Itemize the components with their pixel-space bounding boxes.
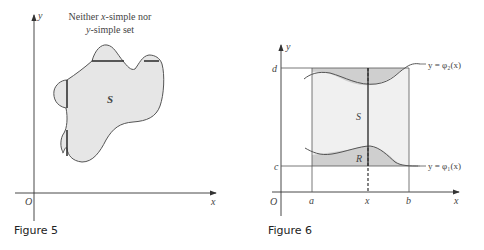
- fig5-region-label: S: [107, 93, 113, 105]
- figure-6: y x O d c a x b S R y = φ₂(x) y = φ₁(x): [270, 41, 461, 216]
- fig5-x-label: x: [210, 196, 216, 207]
- figure-6-caption: Figure 6: [268, 224, 312, 237]
- fig6-upper-curve-label: y = φ₂(x): [428, 60, 461, 70]
- figure-5-caption: Figure 5: [14, 224, 58, 237]
- fig6-tick-x: x: [364, 195, 370, 206]
- fig6-region-s-label: S: [356, 111, 361, 122]
- fig5-title-line1: Neither x-simple nor: [69, 11, 152, 22]
- figure-5: y x O Neither x-simple nor y-simple set …: [15, 10, 216, 221]
- fig5-origin-label: O: [25, 196, 32, 207]
- fig6-origin-label: O: [270, 196, 277, 207]
- diagram-canvas: y x O Neither x-simple nor y-simple set …: [0, 0, 484, 250]
- fig6-lower-curve-label: y = φ₁(x): [428, 161, 461, 171]
- fig6-tick-b: b: [406, 195, 411, 206]
- fig5-title-line2: y-simple set: [85, 24, 134, 35]
- fig6-region-r-label: R: [355, 153, 362, 164]
- fig6-y-label: y: [285, 41, 291, 52]
- fig6-tick-c: c: [274, 161, 279, 172]
- fig6-tick-d: d: [272, 63, 278, 74]
- fig6-x-label: x: [453, 195, 459, 206]
- fig6-tick-a: a: [309, 195, 314, 206]
- fig5-y-label: y: [37, 10, 43, 21]
